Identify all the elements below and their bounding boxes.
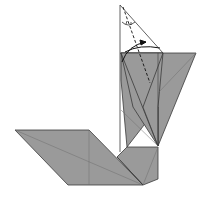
vertical-column [121, 53, 196, 147]
origami-diagram [0, 0, 207, 199]
white-top-flap [120, 5, 163, 53]
